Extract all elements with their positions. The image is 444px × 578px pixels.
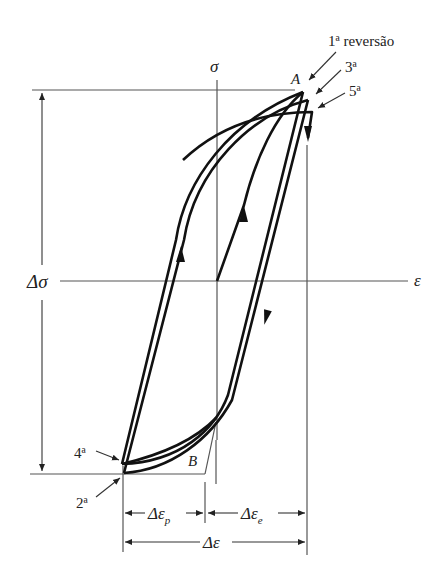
total-strain-label: Δε xyxy=(202,533,220,552)
plastic-strain-label: Δεp xyxy=(147,504,171,526)
sigma-axis-label: σ xyxy=(210,57,219,76)
third-reversal-label: 3ª xyxy=(345,59,358,75)
epsilon-axis-label: ε xyxy=(414,271,421,290)
second-reversal-label: 2ª xyxy=(76,495,89,511)
point-a-label: A xyxy=(290,71,301,87)
first-reversal-label: 1ª reversão xyxy=(328,33,394,49)
fifth-reversal-label: 5ª xyxy=(349,83,362,99)
elastic-strain-label: Δεe xyxy=(240,504,263,526)
curve-direction-arrows xyxy=(176,126,312,326)
point-b-label: B xyxy=(188,453,197,469)
stress-range-label: Δσ xyxy=(26,271,48,292)
fourth-reversal-label: 4ª xyxy=(74,445,87,461)
hysteresis-diagram: σ ε Δσ xyxy=(0,0,444,578)
